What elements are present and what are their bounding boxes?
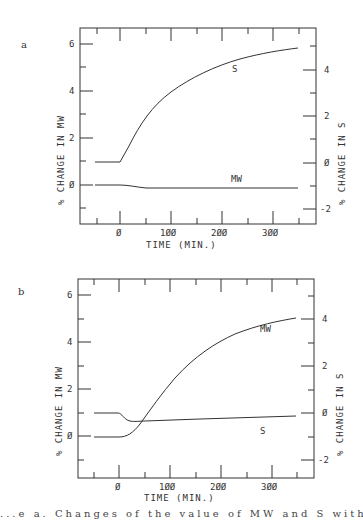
svg-text:2ØØ: 2ØØ — [210, 482, 227, 492]
svg-text:3ØØ: 3ØØ — [262, 228, 279, 238]
series-label-s-b: S — [260, 426, 265, 436]
svg-text:4: 4 — [324, 65, 329, 75]
x-axis-title-a: TIME (MIN.) — [146, 240, 217, 250]
series-mw-line-a — [95, 185, 298, 188]
panel-b — [78, 279, 314, 478]
panel-a-labels: a 6 4 2 Ø 4 2 Ø -2 Ø 1ØØ 2ØØ 3ØØ TIME (M… — [21, 39, 347, 250]
figure-caption: ...e a. Changes of the value of MW and S… — [0, 508, 363, 522]
svg-text:-2: -2 — [320, 204, 331, 214]
left-axis-title-b: % CHANGE IN MW — [54, 366, 64, 456]
panel-label-a: a — [21, 39, 27, 50]
svg-text:2ØØ: 2ØØ — [211, 228, 228, 238]
svg-text:2: 2 — [324, 111, 329, 121]
svg-text:6: 6 — [67, 290, 72, 300]
svg-text:4: 4 — [67, 337, 72, 347]
series-label-mw-a: MW — [231, 174, 242, 184]
svg-text:3ØØ: 3ØØ — [261, 482, 278, 492]
x-axis-title-b: TIME (MIN.) — [144, 493, 215, 503]
panel-b-labels: b 6 4 2 Ø 4 2 Ø -2 Ø 1ØØ 2ØØ 3ØØ TIME (M… — [18, 286, 345, 503]
series-s-line-b — [94, 413, 296, 421]
right-axis-title-b: % CHANGE IN S — [335, 373, 345, 456]
svg-text:1ØØ: 1ØØ — [160, 228, 177, 238]
svg-text:Ø: Ø — [324, 158, 330, 168]
svg-text:Ø: Ø — [115, 482, 121, 492]
svg-text:1ØØ: 1ØØ — [159, 482, 176, 492]
svg-text:Ø: Ø — [69, 180, 75, 190]
series-label-mw-b: MW — [260, 324, 271, 334]
right-axis-title-a: % CHANGE IN S — [337, 122, 347, 205]
panel-label-b: b — [18, 286, 24, 297]
series-label-s-a: S — [232, 64, 237, 74]
left-axis-title-a: % CHANGE IN MW — [56, 115, 66, 205]
svg-text:6: 6 — [69, 39, 74, 49]
svg-text:2: 2 — [322, 361, 327, 371]
svg-text:Ø: Ø — [67, 431, 73, 441]
svg-text:Ø: Ø — [322, 408, 328, 418]
panel-a-frame — [80, 28, 316, 224]
svg-text:2: 2 — [67, 384, 72, 394]
svg-text:4: 4 — [69, 86, 74, 96]
svg-text:-2: -2 — [318, 455, 329, 465]
panel-b-frame — [78, 279, 314, 478]
series-s-line-a — [95, 48, 298, 162]
svg-text:2: 2 — [69, 133, 74, 143]
svg-text:Ø: Ø — [116, 228, 122, 238]
svg-text:4: 4 — [322, 314, 327, 324]
panel-a — [80, 28, 316, 224]
